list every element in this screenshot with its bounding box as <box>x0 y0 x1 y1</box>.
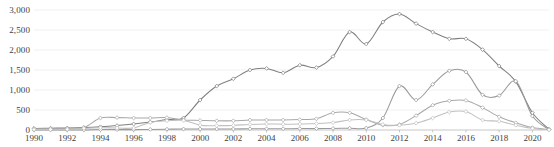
data-point-marker <box>248 123 252 127</box>
data-point-marker <box>248 68 252 72</box>
series-line-series-2 <box>34 69 549 130</box>
y-tick-label-1,000: 1,000 <box>9 86 30 95</box>
data-point-marker <box>215 124 219 128</box>
data-point-marker <box>231 119 235 123</box>
data-point-marker <box>447 99 451 103</box>
data-point-marker <box>331 121 335 125</box>
data-point-marker <box>231 124 235 128</box>
data-point-marker <box>115 116 119 120</box>
chart-plot-area <box>0 0 554 147</box>
data-point-marker <box>215 119 219 123</box>
data-point-marker <box>165 127 169 131</box>
data-point-marker <box>497 119 501 123</box>
y-tick-label-1,500: 1,500 <box>9 66 30 75</box>
data-point-marker <box>315 122 319 126</box>
data-point-marker <box>497 115 501 119</box>
data-point-marker <box>447 69 451 73</box>
data-point-marker <box>315 117 319 121</box>
data-point-marker <box>348 126 352 130</box>
data-point-marker <box>148 116 152 120</box>
data-point-marker <box>447 110 451 114</box>
data-point-marker <box>265 122 269 126</box>
data-point-marker <box>481 106 485 110</box>
data-point-marker <box>464 99 468 103</box>
data-point-marker <box>99 116 103 120</box>
data-point-marker <box>248 118 252 122</box>
data-point-marker <box>281 71 285 75</box>
data-point-marker <box>298 63 302 67</box>
data-point-marker <box>348 118 352 122</box>
data-series-group <box>34 14 549 130</box>
y-tick-label-3,000: 3,000 <box>9 6 30 15</box>
data-point-marker <box>265 118 269 122</box>
data-point-marker <box>431 30 435 34</box>
data-point-marker <box>132 116 136 120</box>
data-point-marker <box>132 122 136 126</box>
data-point-marker <box>198 119 202 123</box>
data-point-marker <box>348 111 352 115</box>
line-chart: 05001,0001,5002,0002,5003,000 1990199219… <box>0 0 554 147</box>
gridlines-group <box>34 10 549 130</box>
data-point-marker <box>431 103 435 107</box>
data-point-marker <box>364 126 368 130</box>
data-point-marker <box>281 118 285 122</box>
data-point-marker <box>414 98 418 102</box>
x-tick-label-2020: 2020 <box>512 134 552 143</box>
data-point-marker <box>281 122 285 126</box>
data-point-marker <box>298 118 302 122</box>
data-point-marker <box>331 111 335 115</box>
data-point-marker <box>414 121 418 125</box>
y-tick-label-2,000: 2,000 <box>9 46 30 55</box>
data-point-marker <box>431 116 435 120</box>
y-tick-label-500: 500 <box>16 106 30 115</box>
data-point-marker <box>198 123 202 127</box>
data-point-marker <box>398 12 402 16</box>
data-point-marker <box>481 118 485 122</box>
y-tick-label-2,500: 2,500 <box>9 26 30 35</box>
data-point-marker <box>231 77 235 81</box>
data-point-marker <box>298 122 302 126</box>
data-point-marker <box>315 66 319 70</box>
data-point-marker <box>464 37 468 41</box>
data-point-marker <box>447 37 451 41</box>
data-point-marker <box>148 128 152 132</box>
series-line-series-1 <box>34 14 549 129</box>
